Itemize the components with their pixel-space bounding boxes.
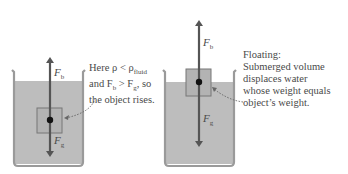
label-fb-left: Fb [54,66,64,81]
caption-rising: Here ρ < ρfluid and Fb > Fg, so the obje… [89,62,155,106]
caption-floating: Floating: Submerged volume displaces wat… [243,49,330,109]
label-fb-right: Fb [203,36,213,51]
center-dot-right [196,79,202,85]
label-fg-left: Fg [54,134,64,149]
label-fg-right: Fg [203,112,213,127]
center-dot-left [47,117,53,123]
